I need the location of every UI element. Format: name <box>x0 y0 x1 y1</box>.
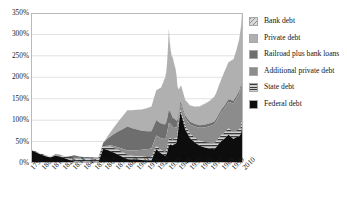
legend-item[interactable]: Additional private debt <box>249 66 345 76</box>
legend-item-label: Additional private debt <box>264 66 334 75</box>
bank-debt-swatch <box>249 17 258 26</box>
legend-item[interactable]: Federal debt <box>249 99 345 109</box>
chart-legend: Bank debtPrivate debtRailroad plus bank … <box>249 16 345 115</box>
legend-item-label: Railroad plus bank loans <box>264 49 339 58</box>
chart-screenshot: 350%300%250%200%150%100%50%0% 1790180118… <box>0 0 347 211</box>
y-axis: 350%300%250%200%150%100%50%0% <box>0 0 29 176</box>
legend-item[interactable]: Private debt <box>249 33 345 43</box>
legend-item[interactable]: Bank debt <box>249 16 345 26</box>
legend-item-label: Private debt <box>264 33 300 42</box>
plot-area <box>31 13 243 163</box>
railroad-bank-loans-swatch <box>249 50 258 59</box>
legend-item-label: Federal debt <box>264 99 302 108</box>
y-axis-tick-label: 150% <box>0 95 29 102</box>
legend-item-label: Bank debt <box>264 16 295 25</box>
y-axis-tick-label: 100% <box>0 116 29 123</box>
plot-border <box>31 13 243 163</box>
legend-item[interactable]: State debt <box>249 82 345 92</box>
y-axis-tick-label: 200% <box>0 73 29 80</box>
legend-item-label: State debt <box>264 82 294 91</box>
x-axis: 1790180118121823183418451856186718781889… <box>31 164 243 211</box>
private-debt-swatch <box>249 34 258 43</box>
y-axis-tick-label: 250% <box>0 52 29 59</box>
y-axis-tick-label: 350% <box>0 9 29 16</box>
federal-debt-swatch <box>249 100 258 109</box>
additional-private-debt-swatch <box>249 67 258 76</box>
y-axis-tick-label: 50% <box>0 138 29 145</box>
y-axis-tick-label: 300% <box>0 30 29 37</box>
state-debt-swatch <box>249 83 258 92</box>
y-axis-tick-label: 0% <box>0 159 29 166</box>
legend-item[interactable]: Railroad plus bank loans <box>249 49 345 59</box>
